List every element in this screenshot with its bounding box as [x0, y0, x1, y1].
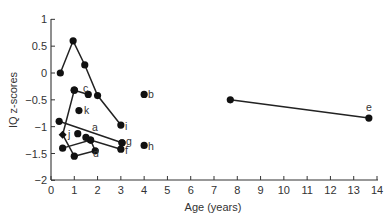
x-tick-label: 13: [348, 184, 360, 196]
label-f: f: [125, 144, 128, 156]
dot-marker-i: [57, 69, 64, 76]
label-d: d: [93, 147, 99, 159]
x-tick-label: 12: [324, 184, 336, 196]
label-h: h: [148, 140, 154, 152]
dot-marker-a: [56, 118, 63, 125]
x-tick-label: 10: [278, 184, 290, 196]
dot-marker-k: [75, 107, 82, 114]
series-lines: [59, 41, 369, 156]
label-a: a: [92, 121, 98, 133]
x-tick-label: 0: [48, 184, 54, 196]
dot-marker-h: [141, 142, 148, 149]
y-tick-label: 0.5: [32, 40, 47, 52]
dot-marker-i: [117, 121, 124, 128]
x-axis-title: Age (years): [185, 201, 242, 213]
x-tick-label: 7: [211, 184, 217, 196]
x-tick-label: 9: [258, 184, 264, 196]
dot-marker-e: [365, 114, 372, 121]
iq-age-chart: 10.50−0.5−1−1.5−2 01234567891011121314 A…: [0, 0, 391, 220]
series-line-i: [60, 41, 121, 125]
label-c: c: [83, 82, 88, 94]
dot-marker-diamond-series: [71, 87, 78, 94]
dot-marker-j: [82, 134, 89, 141]
label-b: b: [148, 88, 154, 100]
x-tick-label: 4: [141, 184, 147, 196]
y-tick-label: −1: [34, 121, 47, 133]
y-axis-title: IQ z-scores: [7, 71, 19, 128]
label-e: e: [366, 101, 372, 113]
dot-marker-i: [81, 61, 88, 68]
label-k: k: [84, 104, 90, 116]
x-ticks: 01234567891011121314: [48, 176, 383, 196]
dot-marker-b: [141, 91, 148, 98]
dot-marker-f: [117, 146, 124, 153]
dot-marker-e: [227, 96, 234, 103]
x-tick-label: 2: [95, 184, 101, 196]
diamond-marker: [59, 131, 67, 139]
series-markers: [56, 37, 373, 160]
x-tick-label: 1: [71, 184, 77, 196]
dot-marker-i: [94, 92, 101, 99]
y-tick-label: 0: [41, 67, 47, 79]
label-i: i: [125, 120, 127, 132]
x-tick-label: 11: [301, 184, 312, 196]
series-line-e: [230, 100, 369, 118]
y-tick-label: −2: [34, 174, 47, 186]
y-tick-label: −1.5: [25, 148, 47, 160]
x-tick-label: 8: [234, 184, 240, 196]
dot-marker-d: [71, 153, 78, 160]
label-j: j: [67, 128, 70, 140]
x-tick-label: 5: [164, 184, 170, 196]
dot-marker-f: [59, 145, 66, 152]
x-tick-label: 14: [371, 184, 383, 196]
x-tick-label: 3: [118, 184, 124, 196]
y-tick-label: 1: [41, 13, 47, 25]
y-tick-label: −0.5: [25, 94, 47, 106]
x-tick-label: 6: [188, 184, 194, 196]
dot-marker-j: [74, 130, 81, 137]
dot-marker-i: [70, 37, 77, 44]
